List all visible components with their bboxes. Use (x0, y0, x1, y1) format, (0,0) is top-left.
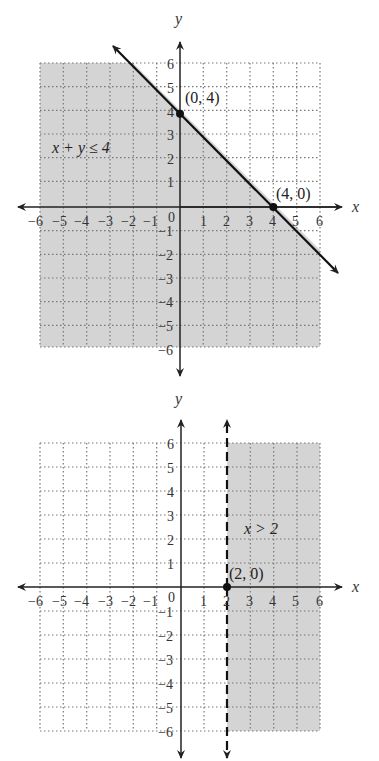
svg-text:−1: −1 (143, 594, 158, 609)
svg-text:−3: −3 (158, 272, 173, 287)
svg-text:−5: −5 (158, 701, 173, 716)
svg-text:1: 1 (200, 594, 207, 609)
svg-text:−6: −6 (158, 725, 173, 740)
y-axis-label: y (173, 10, 183, 28)
svg-text:5: 5 (292, 214, 299, 229)
svg-text:3: 3 (167, 509, 174, 524)
svg-text:1: 1 (200, 214, 207, 229)
graph-x-gt-2: y x (2, 0) x > 2 −6 −5 −4 −3 −2 −1 0 1 2… (0, 380, 379, 761)
svg-text:−5: −5 (52, 214, 67, 229)
svg-text:−3: −3 (98, 594, 113, 609)
svg-text:3: 3 (246, 214, 253, 229)
point-label-2-0: (2, 0) (229, 565, 264, 583)
point-2-0 (223, 583, 231, 591)
svg-text:5: 5 (167, 461, 174, 476)
x-axis-label: x (351, 578, 359, 595)
svg-text:−2: −2 (121, 594, 136, 609)
point-4-0 (269, 203, 277, 211)
svg-text:4: 4 (167, 105, 174, 120)
inequality-label: x > 2 (243, 520, 278, 537)
svg-text:−1: −1 (158, 224, 173, 239)
svg-text:6: 6 (316, 594, 323, 609)
x-axis-label: x (351, 198, 359, 215)
svg-text:4: 4 (167, 485, 174, 500)
svg-text:−6: −6 (28, 214, 43, 229)
svg-text:−2: −2 (158, 629, 173, 644)
svg-text:−1: −1 (158, 605, 173, 620)
svg-text:−4: −4 (74, 594, 89, 609)
svg-text:−5: −5 (52, 594, 67, 609)
point-label-4-0: (4, 0) (276, 185, 311, 203)
svg-text:−4: −4 (74, 214, 89, 229)
svg-text:3: 3 (246, 594, 253, 609)
svg-text:2: 2 (167, 152, 174, 167)
svg-text:−6: −6 (158, 343, 173, 358)
svg-text:−3: −3 (158, 653, 173, 668)
svg-text:4: 4 (269, 594, 276, 609)
svg-text:2: 2 (223, 594, 230, 609)
svg-text:−2: −2 (121, 214, 136, 229)
svg-text:−6: −6 (28, 594, 43, 609)
svg-text:−3: −3 (98, 214, 113, 229)
inequality-label: x + y ≤ 4 (51, 139, 110, 157)
svg-text:4: 4 (269, 214, 276, 229)
svg-text:6: 6 (167, 437, 174, 452)
point-0-4 (176, 110, 184, 118)
y-axis-label: y (173, 390, 183, 408)
svg-text:2: 2 (167, 533, 174, 548)
svg-text:−4: −4 (158, 677, 173, 692)
point-label-0-4: (0, 4) (185, 89, 220, 107)
svg-text:5: 5 (167, 81, 174, 96)
svg-text:−4: −4 (158, 295, 173, 310)
svg-text:2: 2 (223, 214, 230, 229)
graph-x-plus-y-le-4: y x (0, 4) (4, 0) x + y ≤ 4 −6 −5 −4 −3 … (0, 0, 379, 380)
svg-text:3: 3 (167, 128, 174, 143)
svg-text:0: 0 (168, 590, 175, 605)
svg-text:6: 6 (167, 57, 174, 72)
svg-text:−2: −2 (158, 248, 173, 263)
svg-text:1: 1 (167, 175, 174, 190)
svg-text:−5: −5 (158, 319, 173, 334)
svg-text:−1: −1 (143, 214, 158, 229)
svg-text:1: 1 (167, 557, 174, 572)
svg-text:5: 5 (292, 594, 299, 609)
y-tick-labels: 6 5 4 3 2 1 −1 −2 −3 −4 −5 −6 (158, 437, 174, 740)
svg-text:6: 6 (316, 214, 323, 229)
svg-text:0: 0 (168, 210, 175, 225)
